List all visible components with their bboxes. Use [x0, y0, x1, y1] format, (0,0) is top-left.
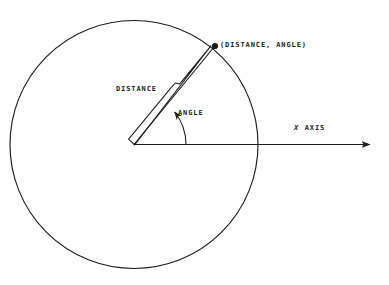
- point-marker: [212, 43, 218, 49]
- angle-label: ANGLE: [178, 110, 204, 117]
- diagram-canvas: [0, 0, 389, 285]
- point-label: (DISTANCE, ANGLE): [220, 42, 307, 49]
- polar-coordinate-diagram: (DISTANCE, ANGLE) DISTANCE ANGLE X AXIS: [0, 0, 389, 285]
- distance-label: DISTANCE: [116, 86, 157, 93]
- distance-wedge-leader: [129, 46, 211, 145]
- x-axis-label-word: AXIS: [300, 124, 326, 132]
- x-axis-label: X AXIS: [294, 125, 325, 132]
